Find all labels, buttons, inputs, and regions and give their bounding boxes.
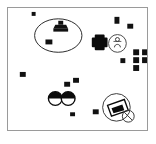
ellipse-inner-marker[interactable] [45,39,52,44]
marker-cluster-right [133,49,147,71]
cluster-square-3[interactable] [133,57,139,63]
stamp-icon[interactable] [53,21,68,32]
screenshot-root [0,0,156,144]
scene-vector-layer [8,8,147,130]
canvas-frame[interactable] [7,7,148,131]
marker-11[interactable] [20,72,26,77]
marker-03[interactable] [127,24,133,29]
marker-01[interactable] [32,12,36,16]
cluster-square-4[interactable] [142,57,147,63]
marker-12[interactable] [64,82,70,87]
cluster-square-2[interactable] [142,49,147,55]
marker-02[interactable] [114,17,119,24]
half-filled-circle-left[interactable] [48,92,62,106]
cluster-square-5[interactable] [133,65,139,71]
marker-15[interactable] [93,109,99,114]
marker-14[interactable] [70,112,75,116]
half-filled-circle-right[interactable] [61,92,75,106]
plus-cross-icon[interactable] [93,36,107,50]
marker-13[interactable] [73,78,79,83]
cluster-square-1[interactable] [133,49,139,55]
marker-05[interactable] [120,58,125,63]
circled-figure-icon[interactable] [109,35,127,53]
